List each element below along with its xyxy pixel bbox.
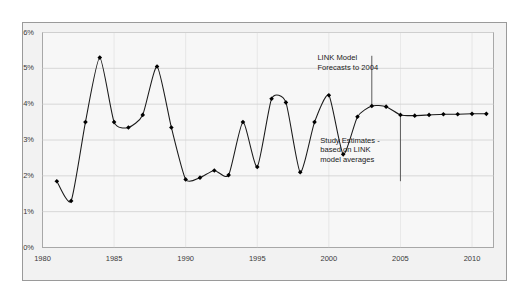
- data-point-1987: [140, 113, 145, 118]
- study-estimates-note: Study Estimates - based on LINK model av…: [320, 136, 380, 165]
- data-point-1981: [55, 179, 60, 184]
- series-line-growth-rate: [57, 58, 487, 202]
- chart-figure: 0%1%2%3%4%5%6% 1980198519901995200020052…: [0, 0, 529, 304]
- data-point-1996: [269, 96, 274, 101]
- data-point-1989: [169, 125, 174, 130]
- data-point-2011: [484, 112, 489, 117]
- data-point-1985: [112, 120, 117, 125]
- data-point-1982: [69, 199, 74, 204]
- data-point-1983: [83, 120, 88, 125]
- data-point-2010: [470, 112, 475, 117]
- gridlines: [43, 33, 494, 248]
- data-point-1999: [312, 120, 317, 125]
- chart-svg: [0, 0, 529, 304]
- data-point-1992: [212, 168, 217, 173]
- data-point-2000: [327, 93, 332, 98]
- data-point-2008: [441, 112, 446, 117]
- data-point-2004: [384, 104, 389, 109]
- data-point-1986: [126, 125, 131, 130]
- data-point-2009: [455, 112, 460, 117]
- data-point-1984: [97, 55, 102, 60]
- link-model-forecast-note: LINK Model Forecasts to 2004: [317, 53, 378, 72]
- data-point-2007: [427, 113, 432, 118]
- series-markers: [55, 55, 489, 203]
- data-point-2005: [398, 113, 403, 118]
- data-point-2006: [412, 113, 417, 118]
